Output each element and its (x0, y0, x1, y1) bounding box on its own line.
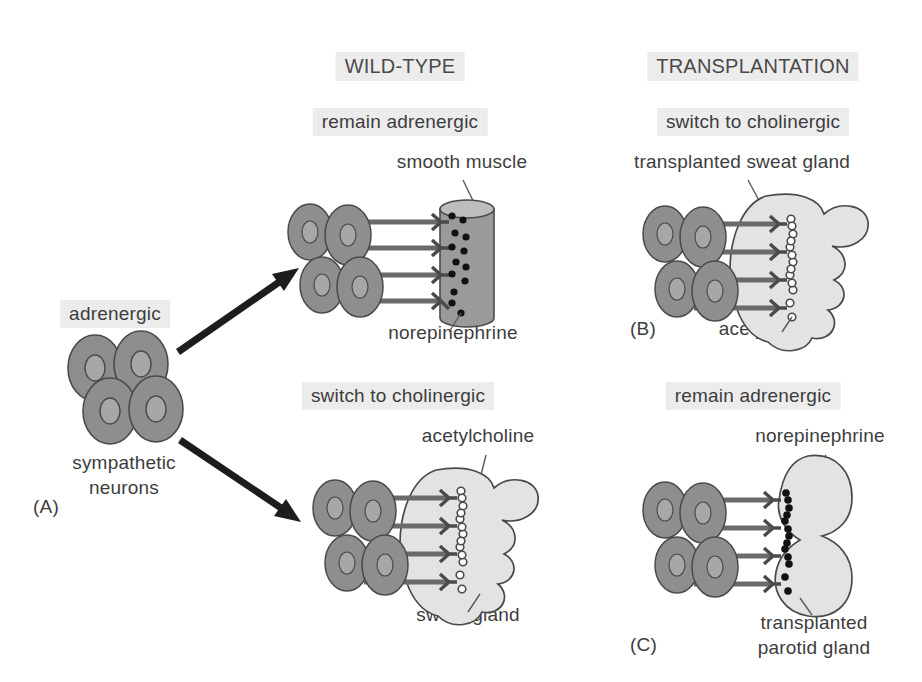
panel-transplant-parotid-gland (0, 0, 922, 682)
neuron-cluster-4 (643, 482, 738, 597)
figure-canvas: WILD-TYPE TRANSPLANTATION adrenergic sym… (0, 0, 922, 682)
